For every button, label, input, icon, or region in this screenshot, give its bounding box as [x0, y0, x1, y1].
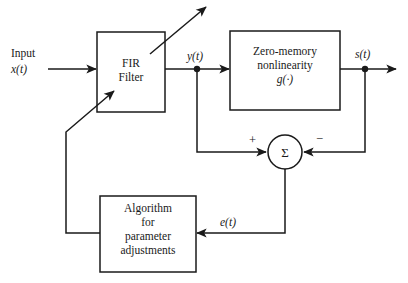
block-diagram: FIR Filter Zero-memory nonlinearity g(·)…: [0, 0, 408, 283]
error-path: [197, 169, 285, 233]
input-word-label: Input: [11, 47, 35, 61]
error-signal-label: e(t): [220, 216, 236, 230]
minus-sign-label: −: [316, 133, 323, 146]
parameter-output-arrow: [150, 7, 206, 54]
algorithm-block: [100, 196, 196, 272]
filter-output-label: y(t): [187, 50, 203, 64]
input-signal-label: x(t): [11, 63, 27, 77]
s-node-dot: [362, 66, 368, 72]
fir-filter-block: [97, 32, 165, 112]
diagram-canvas: [0, 0, 408, 283]
zero-memory-nonlinearity-block: [230, 31, 340, 110]
plus-sign-label: +: [249, 134, 256, 147]
sigma-glyph: Σ: [268, 146, 302, 159]
y-node-dot: [194, 66, 200, 72]
system-output-label: s(t): [355, 48, 370, 62]
